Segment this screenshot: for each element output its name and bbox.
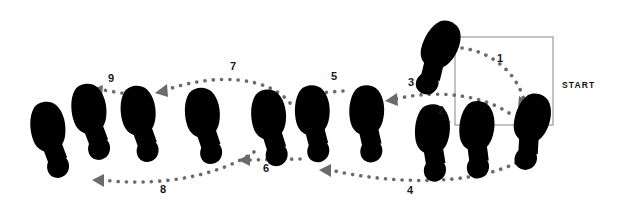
footprint-step6-light-a	[250, 89, 289, 168]
step-number-7: 7	[230, 60, 236, 72]
footprint-step6-light-b	[183, 86, 223, 165]
step-number-9: 9	[108, 72, 114, 84]
step-number-3: 3	[408, 76, 414, 88]
step-number-6: 6	[263, 162, 269, 174]
footprint-step7-dark-a	[119, 84, 160, 164]
step-number-2: 2	[438, 104, 444, 116]
arrowhead-4	[319, 164, 331, 177]
footprint-start-left-dark	[500, 89, 557, 173]
step-number-8: 8	[160, 183, 166, 195]
footprint-step3-dark-a	[348, 85, 386, 163]
footprint-step8-light-end	[28, 100, 71, 180]
step-number-1: 1	[497, 52, 503, 64]
footprint-step2-right-light	[453, 99, 497, 180]
step-number-4: 4	[407, 184, 414, 196]
arrowhead-8	[92, 174, 104, 187]
footprint-step5-dark-b	[295, 85, 330, 162]
footprint-step-diagram: .fp .sole{stroke:#6f6f6f;stroke-width:1.…	[0, 0, 617, 208]
arrowhead-3	[385, 93, 398, 106]
footprint-step2-left-light	[411, 103, 452, 183]
start-label: START	[562, 80, 595, 90]
step-number-5: 5	[331, 70, 337, 82]
arrowhead-7	[155, 84, 168, 97]
footprint-step9-dark-b	[69, 82, 112, 162]
arrow-path-8	[92, 152, 254, 187]
